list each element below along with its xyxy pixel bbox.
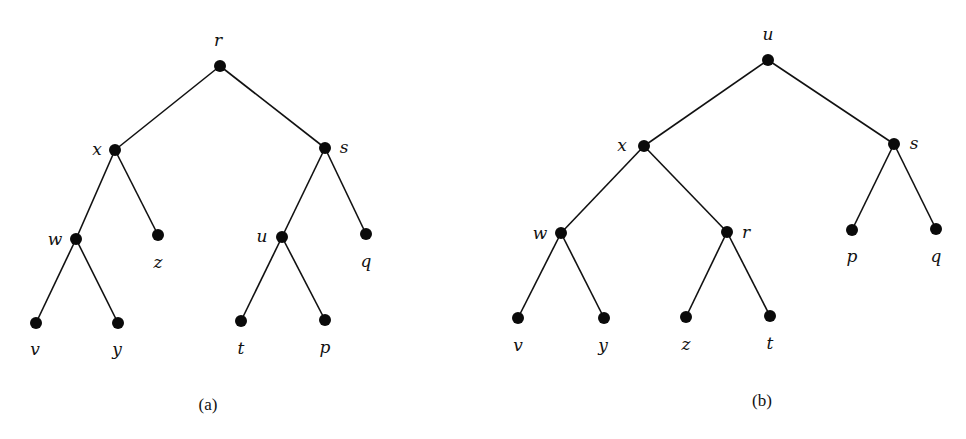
node-x: [638, 140, 650, 152]
node-label-z: z: [681, 334, 692, 354]
edge-x-w: [76, 150, 115, 239]
node-label-t: t: [767, 333, 774, 353]
node-s: [888, 138, 900, 150]
tree-panel-a: rxswzuqvytp (a): [30, 30, 372, 414]
tree-b-edges: [518, 60, 936, 318]
node-label-v: v: [30, 339, 40, 359]
node-y: [598, 312, 610, 324]
edge-u-x: [644, 60, 768, 146]
node-label-q: q: [361, 251, 372, 271]
node-q: [930, 223, 942, 235]
node-z: [680, 311, 692, 323]
node-w: [555, 227, 567, 239]
tree-a-edges: [36, 66, 366, 323]
node-label-p: p: [847, 246, 858, 266]
tree-a-nodes: [30, 60, 372, 329]
edge-r-z: [686, 232, 727, 317]
node-r: [214, 60, 226, 72]
node-t: [235, 315, 247, 327]
edge-r-s: [220, 66, 325, 148]
edge-u-p: [282, 237, 325, 320]
edge-w-v: [518, 233, 561, 318]
edge-s-u: [282, 148, 325, 237]
node-label-q: q: [931, 246, 942, 266]
node-u: [276, 231, 288, 243]
node-p: [846, 224, 858, 236]
node-v: [30, 317, 42, 329]
node-r: [721, 226, 733, 238]
tree-b-labels: uxswrpqvyzt: [513, 24, 941, 355]
node-label-z: z: [153, 252, 164, 272]
edge-s-q: [894, 144, 936, 229]
node-u: [762, 54, 774, 66]
node-q: [360, 228, 372, 240]
node-t: [764, 310, 776, 322]
edge-r-t: [727, 232, 770, 316]
node-x: [109, 144, 121, 156]
node-label-w: w: [533, 223, 548, 243]
node-label-v: v: [513, 335, 523, 355]
node-label-y: y: [111, 339, 122, 359]
node-label-x: x: [617, 135, 627, 155]
node-label-s: s: [910, 133, 919, 153]
caption-a: (a): [199, 395, 218, 414]
node-label-r: r: [214, 30, 223, 50]
node-label-u: u: [763, 24, 774, 44]
edge-w-y: [561, 233, 604, 318]
edge-s-p: [852, 144, 894, 230]
node-y: [112, 317, 124, 329]
node-label-t: t: [238, 338, 245, 358]
edge-u-s: [768, 60, 894, 144]
node-v: [512, 312, 524, 324]
node-label-u: u: [257, 226, 268, 246]
node-z: [152, 229, 164, 241]
edge-w-v: [36, 239, 76, 323]
caption-b: (b): [752, 391, 772, 410]
edge-x-r: [644, 146, 727, 232]
node-label-w: w: [48, 229, 63, 249]
edge-s-q: [325, 148, 366, 234]
tree-panel-b: uxswrpqvyzt (b): [512, 24, 942, 410]
node-label-s: s: [340, 137, 349, 157]
edge-u-t: [241, 237, 282, 321]
edge-x-w: [561, 146, 644, 233]
node-w: [70, 233, 82, 245]
node-p: [319, 314, 331, 326]
edge-w-y: [76, 239, 118, 323]
node-label-p: p: [320, 337, 331, 357]
node-label-y: y: [597, 335, 608, 355]
tree-b-nodes: [512, 54, 942, 324]
node-s: [319, 142, 331, 154]
tree-figure: rxswzuqvytp (a) uxswrpqvyzt (b): [0, 0, 966, 439]
edge-x-z: [115, 150, 158, 235]
node-label-x: x: [92, 139, 102, 159]
node-label-r: r: [742, 222, 751, 242]
edge-r-x: [115, 66, 220, 150]
